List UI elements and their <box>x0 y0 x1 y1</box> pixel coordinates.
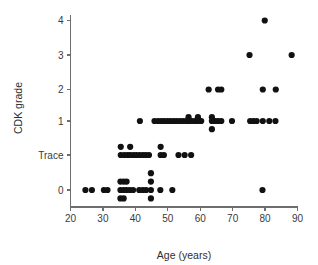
y-tick-label: 4 <box>58 15 64 26</box>
data-point <box>169 187 175 193</box>
axes-group <box>71 15 298 207</box>
chart-canvas: 0Trace12342030405060708090 Age (years) C… <box>0 0 318 265</box>
data-point <box>229 118 235 124</box>
data-points-group <box>82 17 294 201</box>
x-axis-title: Age (years) <box>157 249 211 261</box>
scatter-plot-figure: 0Trace12342030405060708090 Age (years) C… <box>0 0 318 265</box>
data-point <box>272 118 278 124</box>
data-point <box>127 144 133 150</box>
y-tick-label: 3 <box>58 50 64 61</box>
data-point <box>124 179 130 185</box>
data-point <box>188 152 194 158</box>
y-tick-label: Trace <box>38 150 64 161</box>
y-tick-label: 0 <box>58 185 64 196</box>
y-axis-title: CDK grade <box>12 82 24 134</box>
data-point <box>206 86 212 92</box>
data-point <box>254 118 260 124</box>
x-tick-label: 40 <box>130 213 142 224</box>
data-point <box>137 118 143 124</box>
x-tick-label: 70 <box>227 213 239 224</box>
data-point <box>260 86 266 92</box>
data-point <box>273 86 279 92</box>
data-point <box>82 187 88 193</box>
data-point <box>289 52 295 58</box>
data-point <box>158 144 164 150</box>
data-point <box>121 195 127 201</box>
data-point <box>209 126 215 132</box>
x-tick-label: 30 <box>97 213 109 224</box>
data-point <box>182 152 188 158</box>
data-point <box>262 17 268 23</box>
x-tick-label: 90 <box>292 213 304 224</box>
data-point <box>148 179 154 185</box>
x-tick-label: 80 <box>260 213 272 224</box>
data-point <box>246 52 252 58</box>
data-point <box>157 187 163 193</box>
data-point <box>218 118 224 124</box>
data-point <box>148 170 154 176</box>
data-point <box>161 152 167 158</box>
x-tick-label: 50 <box>162 213 174 224</box>
data-point <box>198 118 204 124</box>
data-point <box>130 187 136 193</box>
data-point <box>260 118 266 124</box>
data-point <box>218 86 224 92</box>
data-point <box>104 187 110 193</box>
y-tick-label: 2 <box>58 84 64 95</box>
data-point <box>148 187 154 193</box>
x-tick-label: 60 <box>195 213 207 224</box>
data-point <box>259 187 265 193</box>
data-point <box>146 152 152 158</box>
data-point <box>266 118 272 124</box>
data-point <box>118 144 124 150</box>
y-tick-label: 1 <box>58 116 64 127</box>
data-point <box>148 195 154 201</box>
ticks-group <box>67 21 298 212</box>
data-point <box>89 187 95 193</box>
data-point <box>175 152 181 158</box>
x-tick-label: 20 <box>65 213 77 224</box>
